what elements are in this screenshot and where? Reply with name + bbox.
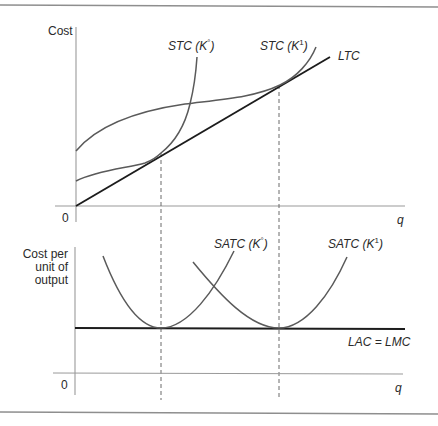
- cost-curves-figure: Cost 0 q STC (K°) STC (K1) LTC Cost per …: [0, 0, 438, 426]
- satc-k0-label: SATC (K°): [214, 236, 268, 251]
- ltc-label: LTC: [338, 49, 360, 63]
- top-origin-label: 0: [62, 211, 69, 225]
- lac-lmc-line: [75, 328, 405, 329]
- top-x-axis-label: q: [397, 213, 404, 227]
- bottom-y-axis-label-line-2: unit of: [35, 260, 68, 274]
- stc-k1-label: STC (K1): [260, 38, 308, 53]
- stc-k0-curve: [76, 57, 197, 181]
- bottom-y-axis-label-line-1: Cost per: [23, 247, 68, 261]
- top-y-axis-label: Cost: [48, 24, 73, 38]
- satc-k0-curve: [103, 251, 234, 328]
- stc-k0-label: STC (K°): [168, 38, 215, 53]
- bottom-x-axis-label: q: [395, 381, 402, 395]
- satc-k1-label: SATC (K1): [328, 236, 383, 251]
- ltc-line: [76, 57, 330, 206]
- bottom-x-axis: [53, 373, 403, 374]
- bottom-border-rule: [0, 412, 438, 414]
- bottom-panel: Cost per unit of output 0 q SATC (K°) SA…: [23, 236, 411, 395]
- satc-k1-curve: [193, 257, 347, 328]
- bottom-y-axis-label-line-3: output: [35, 273, 69, 287]
- bottom-origin-label: 0: [61, 378, 68, 392]
- top-border-rule: [0, 5, 438, 7]
- lac-lmc-label: LAC = LMC: [348, 335, 411, 349]
